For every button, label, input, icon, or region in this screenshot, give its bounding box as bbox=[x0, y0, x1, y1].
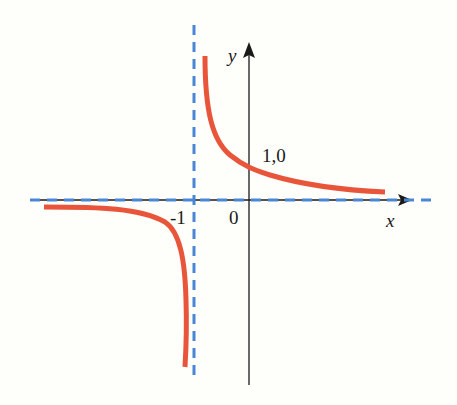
y-axis-label: y bbox=[226, 45, 237, 66]
x-axis-label: x bbox=[385, 210, 395, 231]
minus-one-label: -1 bbox=[170, 207, 186, 228]
hyperbola-chart: y x 0 -1 1,0 bbox=[0, 0, 457, 405]
curve-right-branch bbox=[205, 56, 385, 192]
curve-left-branch bbox=[44, 207, 186, 367]
origin-label: 0 bbox=[229, 207, 239, 228]
y-intercept-label: 1,0 bbox=[262, 145, 286, 166]
